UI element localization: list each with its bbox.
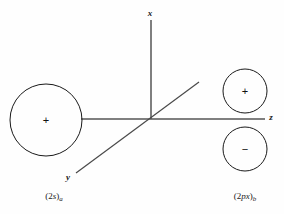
- diagram-canvas: [0, 0, 284, 214]
- caption-2s-a-subscript: a: [59, 195, 63, 203]
- caption-2s-a: (2s)a: [45, 192, 63, 203]
- x-axis-label: x: [148, 9, 153, 18]
- y-axis-line: [76, 82, 199, 173]
- caption-2px-b-prefix: (2: [234, 191, 242, 201]
- orbital-overlap-diagram: + + − x y z (2s)a (2px)b: [0, 0, 284, 214]
- y-axis-label: y: [66, 173, 70, 182]
- sign-minus-2px-b: −: [242, 144, 248, 155]
- caption-2px-b: (2px)b: [234, 192, 257, 203]
- caption-2s-a-prefix: (2: [45, 191, 53, 201]
- sign-plus-2s-a: +: [43, 115, 49, 126]
- caption-2px-b-symbol: px: [241, 191, 250, 201]
- caption-2px-b-subscript: b: [253, 195, 257, 203]
- z-axis-label: z: [269, 113, 273, 122]
- sign-plus-2px-b: +: [242, 86, 248, 97]
